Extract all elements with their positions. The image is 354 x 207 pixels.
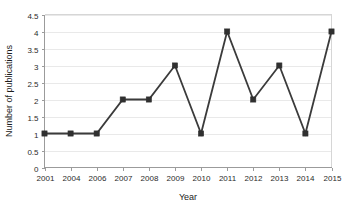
data-point-marker xyxy=(120,97,125,102)
data-point-marker xyxy=(198,131,203,136)
data-point-marker xyxy=(225,29,230,34)
y-axis-title: Number of publications xyxy=(4,44,14,137)
data-point-marker xyxy=(303,131,308,136)
x-tick-label: 2010 xyxy=(193,174,211,183)
y-tick-label: 2.5 xyxy=(27,80,39,89)
x-tick-label: 2006 xyxy=(89,174,107,183)
x-tick-label: 2004 xyxy=(63,174,81,183)
x-tick-label: 2012 xyxy=(245,174,263,183)
publications-line-chart: 00.511.522.533.544.5 2001200420062007200… xyxy=(0,0,354,207)
data-point-marker xyxy=(277,63,282,68)
y-tick-label: 1.5 xyxy=(27,114,39,123)
x-tick-label: 2015 xyxy=(324,174,342,183)
x-axis-title: Year xyxy=(179,192,197,202)
data-point-marker xyxy=(172,63,177,68)
data-point-marker xyxy=(42,131,47,136)
y-tick-label: 0.5 xyxy=(27,148,39,157)
x-tick-label: 2001 xyxy=(37,174,55,183)
chart-canvas: 00.511.522.533.544.5 2001200420062007200… xyxy=(0,0,354,207)
y-tick-label: 2 xyxy=(34,97,39,106)
y-tick-label: 1 xyxy=(34,131,39,140)
y-tick-label: 0 xyxy=(34,165,39,174)
x-tick-label: 2007 xyxy=(115,174,133,183)
x-tick-label: 2008 xyxy=(141,174,159,183)
x-tick-label: 2011 xyxy=(219,174,237,183)
data-point-marker xyxy=(68,131,73,136)
y-tick-label: 4.5 xyxy=(27,12,39,21)
y-tick-label: 3 xyxy=(34,63,39,72)
data-point-marker xyxy=(251,97,256,102)
x-tick-label: 2014 xyxy=(297,174,315,183)
data-point-marker xyxy=(329,29,334,34)
data-point-marker xyxy=(146,97,151,102)
y-tick-label: 4 xyxy=(34,29,39,38)
data-point-marker xyxy=(94,131,99,136)
x-tick-label: 2009 xyxy=(167,174,185,183)
y-tick-label: 3.5 xyxy=(27,46,39,55)
x-tick-label: 2013 xyxy=(271,174,289,183)
